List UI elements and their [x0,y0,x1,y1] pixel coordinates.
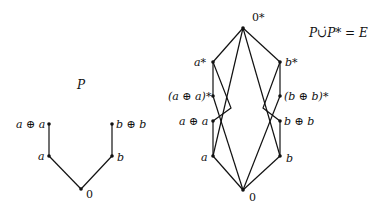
node-label-e-b: b [286,153,293,164]
node-label-a-star: a* [194,57,206,68]
node-label-zero: 0 [86,189,93,200]
node-label-e-b-plus-b: b ⊕ b [284,116,314,127]
node-label-b-plus-b-star: (b ⊕ b)* [284,91,328,102]
node-label-e-a: a [201,152,208,163]
node-label-a: a [38,151,45,162]
diagram-p-edges [49,124,112,189]
diagram-e-title: P∪̇P* = E [309,27,368,39]
node-label-e-a-plus-a: a ⊕ a [179,116,208,127]
diagram-e-nodes [211,26,282,192]
diagram-p-nodes [47,122,114,191]
node-label-a-plus-a: a ⊕ a [16,119,45,130]
node-label-b: b [117,152,124,163]
node-label-b-plus-b: b ⊕ b [116,119,146,130]
node-label-a-plus-a-star: (a ⊕ a)* [168,91,211,102]
diagram-p-title: P [77,79,85,91]
node-label-e-zero: 0 [249,192,256,203]
diagram-e-edges [213,28,280,190]
node-label-b-star: b* [285,57,298,68]
node-label-zero-star: 0* [252,12,265,23]
